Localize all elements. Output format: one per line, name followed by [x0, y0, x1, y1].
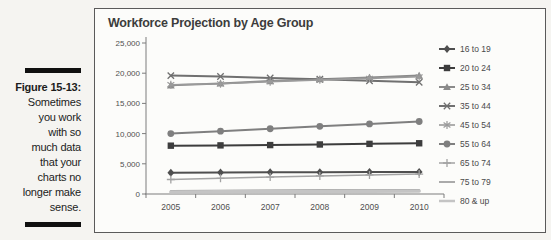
legend-marker-16-to-19 — [444, 45, 451, 53]
figure-caption-bar-bottom — [25, 222, 81, 227]
series-marker-20-to-24 — [168, 142, 174, 148]
series-marker-55-to-64 — [217, 128, 224, 135]
series-marker-55-to-64 — [267, 125, 274, 132]
series-marker-20-to-24 — [217, 142, 223, 148]
x-tick-label: 2010 — [410, 202, 429, 212]
x-tick-label: 2006 — [211, 202, 230, 212]
series-marker-20-to-24 — [366, 141, 372, 147]
figure-caption-line: you work — [2, 110, 81, 125]
series-marker-20-to-24 — [416, 140, 422, 146]
series-marker-20-to-24 — [317, 141, 323, 147]
x-tick-label: 2008 — [310, 202, 329, 212]
series-line-65-to-74 — [171, 174, 419, 179]
legend-marker-55-to-64 — [444, 141, 451, 148]
legend-label-35-to-44: 35 to 44 — [460, 101, 491, 111]
series-marker-65-to-74 — [217, 174, 225, 182]
legend-label-20-to-24: 20 to 24 — [460, 63, 491, 73]
figure-caption-line: longer make — [2, 185, 81, 200]
legend-label-25-to-34: 25 to 34 — [460, 82, 491, 92]
figure-caption-label: Figure 15-13: — [2, 80, 81, 95]
series-marker-55-to-64 — [416, 118, 423, 125]
legend-label-80-up: 80 & up — [460, 196, 490, 206]
series-marker-65-to-74 — [266, 173, 274, 181]
legend-label-75-to-79: 75 to 79 — [460, 177, 491, 187]
legend-label-45-to-54: 45 to 54 — [460, 120, 491, 130]
figure-caption-bar-top — [25, 68, 81, 73]
y-tick-label: 20,000 — [116, 69, 141, 78]
series-line-20-to-24 — [171, 143, 419, 145]
legend-label-65-to-74: 65 to 74 — [460, 158, 491, 168]
series-marker-55-to-64 — [366, 121, 373, 128]
figure-caption: Figure 15-13: Sometimes you work with so… — [2, 68, 81, 227]
workforce-chart: 05,00010,00015,00020,00025,0002005200620… — [95, 9, 545, 232]
y-tick-label: 10,000 — [116, 130, 141, 139]
y-tick-label: 15,000 — [116, 99, 141, 108]
x-tick-label: 2005 — [161, 202, 180, 212]
book-page: Figure 15-13: Sometimes you work with so… — [0, 0, 551, 240]
series-marker-55-to-64 — [316, 123, 323, 130]
y-tick-label: 25,000 — [116, 39, 141, 48]
figure-caption-line: with so — [2, 125, 81, 140]
series-marker-55-to-64 — [167, 130, 174, 137]
figure-caption-line: much data — [2, 140, 81, 155]
figure-caption-line: Sometimes — [2, 95, 81, 110]
legend-label-55-to-64: 55 to 64 — [460, 139, 491, 149]
series-marker-20-to-24 — [267, 142, 273, 148]
series-line-55-to-64 — [171, 122, 419, 134]
y-tick-label: 5,000 — [120, 160, 141, 169]
series-line-16-to-19 — [171, 172, 419, 173]
x-tick-label: 2009 — [360, 202, 379, 212]
series-marker-65-to-74 — [167, 176, 175, 184]
figure-caption-line: sense. — [2, 200, 81, 215]
legend-marker-20-to-24 — [444, 65, 450, 71]
legend-label-16-to-19: 16 to 19 — [460, 44, 491, 54]
x-tick-label: 2007 — [261, 202, 280, 212]
series-line-80-up — [171, 191, 419, 192]
y-tick-label: 0 — [136, 190, 141, 199]
chart-panel: Workforce Projection by Age Group 05,000… — [94, 8, 546, 233]
figure-caption-line: charts no — [2, 170, 81, 185]
legend-marker-65-to-74 — [443, 159, 451, 167]
figure-caption-line: that your — [2, 155, 81, 170]
